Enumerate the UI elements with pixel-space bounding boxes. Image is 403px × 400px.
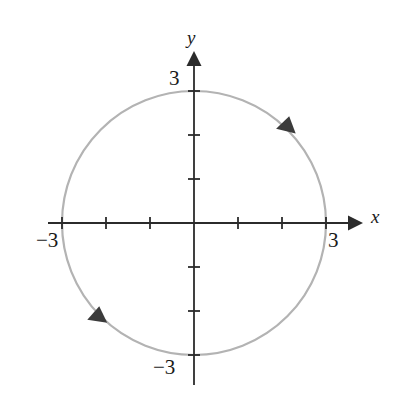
x-tick-label-positive-3: 3 [328, 230, 339, 251]
y-axis-arrowhead-icon [187, 51, 202, 66]
x-axis-group [48, 216, 363, 231]
y-tick-label-negative-3: −3 [153, 357, 175, 378]
y-axis-label: y [187, 28, 195, 47]
coordinate-plane-svg [0, 0, 403, 400]
y-tick-label-positive-3: 3 [169, 68, 180, 89]
graph-figure: y x 3 −3 3 −3 [0, 0, 403, 400]
direction-arrowhead-upper-right-icon [276, 115, 301, 140]
direction-arrowhead-lower-left-icon [87, 305, 112, 330]
x-axis-arrowhead-icon [348, 216, 363, 231]
y-axis-group [187, 51, 202, 385]
x-axis-label: x [371, 207, 379, 226]
x-tick-label-negative-3: −3 [36, 230, 58, 251]
